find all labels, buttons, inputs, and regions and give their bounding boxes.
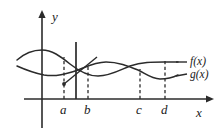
x-axis-arrowhead xyxy=(206,95,214,102)
x-axis xyxy=(24,95,214,102)
label-leader-lines xyxy=(176,62,187,76)
y-axis xyxy=(38,10,45,128)
y-axis-arrowhead xyxy=(38,10,45,18)
graph-figure: y x a b c d f(x) g(x) xyxy=(0,0,221,135)
leader-line-g xyxy=(176,74,187,76)
tick-label-d: d xyxy=(161,103,168,116)
tick-label-c: c xyxy=(136,103,142,116)
secant-endpoint-dot xyxy=(62,82,66,86)
curve-label-f: f(x) xyxy=(190,56,206,68)
tick-label-b: b xyxy=(84,103,91,116)
x-axis-label: x xyxy=(196,106,202,119)
tick-label-a: a xyxy=(60,103,67,116)
secant-line xyxy=(64,57,97,84)
y-axis-label: y xyxy=(52,10,58,23)
graph-canvas xyxy=(0,0,221,135)
curve-label-g: g(x) xyxy=(190,69,209,81)
